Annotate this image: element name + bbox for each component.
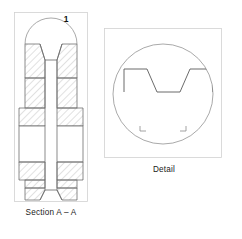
lower-hub-collar-right [57, 162, 83, 180]
central-bore-right [57, 126, 83, 162]
section-lower-flange [25, 188, 77, 200]
drawing-canvas: 1 Section A – A Detail [0, 0, 242, 239]
lower-flange-right-solid [57, 188, 77, 200]
upper-hub-collar-right [57, 108, 83, 126]
central-bore-left [19, 126, 45, 162]
upper-web-left [25, 78, 45, 108]
detail-balloon-1: 1 [64, 14, 69, 24]
upper-web-right [57, 78, 77, 108]
section-upper-flange [25, 44, 77, 78]
detail-break-tick-right [180, 126, 186, 131]
lower-web-right [57, 180, 77, 188]
detail-boundary-circle [113, 44, 213, 144]
detail-break-tick-left [140, 126, 146, 131]
cad-drawing-svg: 1 Section A – A Detail [0, 0, 242, 239]
detail-view-caption: Detail [153, 165, 175, 174]
section-upper-hub-collar [19, 108, 83, 126]
detail-v-groove-profile [124, 69, 213, 92]
detail-groove-profile-group [124, 69, 213, 131]
lower-flange-left-solid [25, 188, 45, 200]
section-view-group: 1 Section A – A [15, 13, 88, 218]
section-central-bore [19, 126, 83, 162]
detail-view-group: Detail [105, 29, 222, 175]
section-upper-dome-arc [25, 18, 77, 44]
upper-hub-collar-left [19, 108, 45, 126]
section-lower-hub-collar [19, 162, 83, 180]
lower-hub-collar-left [19, 162, 45, 180]
lower-web-left [25, 180, 45, 188]
section-view-caption: Section A – A [26, 208, 77, 217]
detail-view-frame [105, 29, 222, 158]
